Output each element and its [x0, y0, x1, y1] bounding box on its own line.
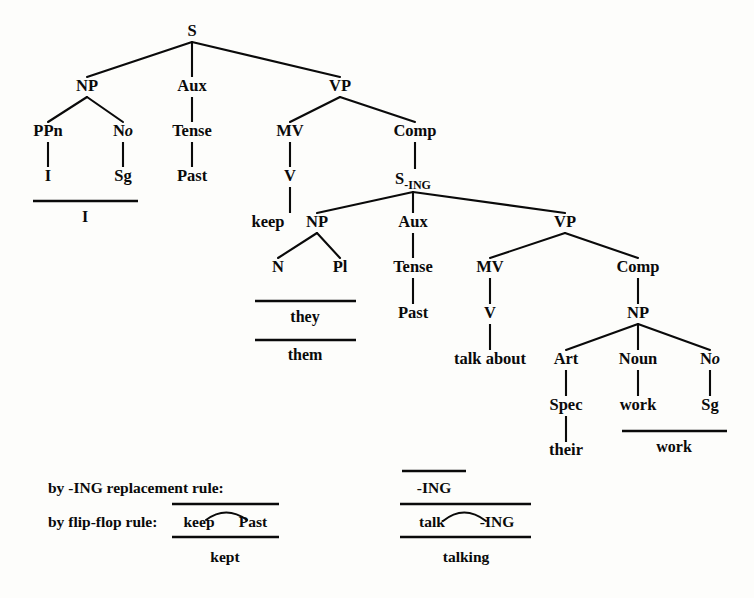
node-number-subject: No: [113, 121, 133, 140]
edge-npobj-n: [278, 233, 317, 258]
node-mv-embedded: MV: [476, 257, 504, 276]
syntax-tree-figure: S NP Aux VP PPn No Tense MV Comp I Sg Pa…: [0, 0, 754, 598]
rule-term-keep: keep: [184, 513, 215, 530]
edge-vp-mv: [290, 97, 340, 122]
terminal-they: they: [290, 308, 319, 326]
node-tense-main: Tense: [172, 121, 212, 140]
terminal-i: I: [82, 208, 88, 225]
edge-npembed-no: [638, 324, 710, 350]
edge-np-no: [87, 97, 123, 122]
node-s-ing-subscript: -ING: [404, 178, 431, 192]
node-v-embedded: V: [484, 303, 496, 322]
node-tense-embedded: Tense: [393, 257, 433, 276]
node-spec: Spec: [550, 395, 583, 414]
node-s-ing: S-ING: [395, 169, 431, 192]
node-sg-subject: Sg: [114, 166, 132, 185]
node-aux-main: Aux: [177, 76, 207, 95]
tree-edges: [48, 42, 710, 442]
node-terminal-their: their: [549, 440, 583, 459]
node-s-ing-base: S: [395, 169, 404, 188]
caption-ing-replacement-rule: by -ING replacement rule:: [48, 479, 224, 496]
node-np-object: NP: [306, 212, 328, 231]
node-mv-main: MV: [276, 121, 304, 140]
edge-s-np: [87, 42, 192, 77]
node-s-root: S: [187, 21, 196, 40]
node-v-main: V: [284, 166, 296, 185]
rule-term-past: Past: [239, 513, 268, 530]
node-number-object: No: [700, 349, 720, 368]
node-pl-object: Pl: [333, 257, 348, 276]
node-terminal-work: work: [620, 395, 657, 414]
terminal-work: work: [656, 438, 692, 455]
edge-vpembed-comp: [565, 233, 638, 258]
node-n-object: N: [272, 257, 284, 276]
node-art: Art: [554, 349, 579, 368]
node-comp-main: Comp: [393, 121, 436, 140]
tree-diagram-canvas: S NP Aux VP PPn No Tense MV Comp I Sg Pa…: [0, 0, 754, 598]
node-aux-embedded: Aux: [398, 212, 428, 231]
node-number-subject-base: N: [113, 121, 125, 140]
node-number-object-base: N: [700, 349, 712, 368]
tree-node-labels: S NP Aux VP PPn No Tense MV Comp I Sg Pa…: [33, 21, 720, 459]
edge-sing-np: [317, 192, 413, 213]
edge-vpembed-mv: [490, 233, 565, 258]
node-sg-object: Sg: [701, 395, 719, 414]
rule-term-ing-embedded: -ING: [480, 513, 514, 530]
edge-sing-vp: [413, 192, 565, 213]
node-past-main: Past: [177, 166, 208, 185]
node-np-embedded: NP: [627, 303, 649, 322]
edge-np-ppn: [48, 97, 87, 122]
node-ppn-terminal-i: I: [45, 166, 51, 185]
edge-vp-comp: [340, 97, 415, 122]
result-kept: kept: [210, 548, 240, 565]
node-ppn: PPn: [33, 121, 62, 140]
rule-term-ing: -ING: [417, 479, 451, 496]
node-terminal-talk-about: talk about: [454, 349, 526, 368]
node-past-embedded: Past: [398, 303, 429, 322]
node-terminal-keep: keep: [252, 212, 285, 231]
node-vp-main: VP: [329, 76, 351, 95]
rule-term-talk: talk: [419, 513, 445, 530]
edge-npembed-art: [566, 324, 638, 350]
caption-flip-flop-rule: by flip-flop rule:: [48, 513, 157, 530]
node-vp-embedded: VP: [554, 212, 576, 231]
terminal-them: them: [288, 346, 323, 363]
edge-s-vp: [192, 42, 340, 77]
edge-npobj-pl: [317, 233, 340, 258]
node-np-subject: NP: [76, 76, 98, 95]
rule-annotations: by -ING replacement rule: -ING by flip-f…: [48, 479, 514, 565]
node-comp-embedded: Comp: [616, 257, 659, 276]
node-number-subject-italic-o: o: [125, 121, 133, 140]
result-talking: talking: [443, 548, 490, 565]
node-noun: Noun: [619, 349, 658, 368]
node-number-object-italic-o: o: [712, 349, 720, 368]
